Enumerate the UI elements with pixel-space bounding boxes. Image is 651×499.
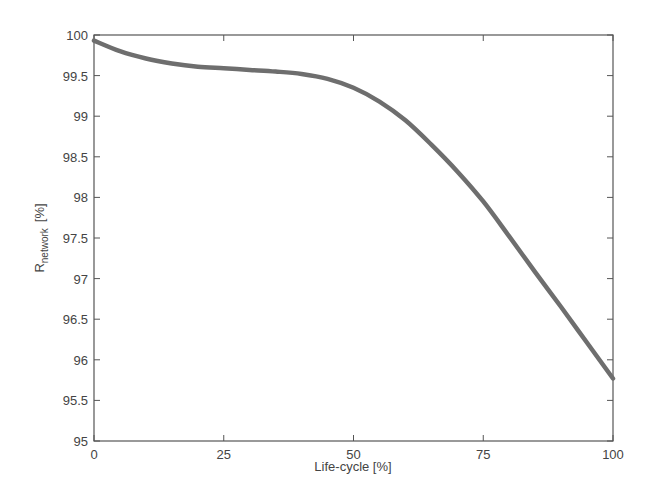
- y-tick-label: 100: [66, 28, 88, 43]
- y-tick-label: 95: [74, 434, 88, 449]
- y-tick-label: 98.5: [63, 150, 88, 165]
- y-tick-label: 98: [74, 190, 88, 205]
- y-tick-label: 99.5: [63, 69, 88, 84]
- x-tick-label: 25: [217, 447, 231, 462]
- y-tick-label: 95.5: [63, 393, 88, 408]
- y-tick-label: 99: [74, 109, 88, 124]
- y-axis-title-subscript: network: [39, 227, 50, 263]
- y-tick-label: 96.5: [63, 312, 88, 327]
- x-tick-label: 75: [476, 447, 490, 462]
- y-axis-title-unit: [%]: [32, 203, 47, 222]
- y-axis-title-main: R: [32, 263, 47, 272]
- y-tick-label: 97: [74, 272, 88, 287]
- plot-area: [94, 35, 613, 441]
- y-tick-label: 96: [74, 353, 88, 368]
- line-chart: 9595.59696.59797.59898.59999.5100 025507…: [0, 0, 651, 499]
- x-tick-label: 100: [602, 447, 624, 462]
- x-axis-title: Life-cycle [%]: [314, 459, 391, 474]
- y-axis-title: Rnetwork[%]: [32, 203, 50, 272]
- x-tick-label: 0: [90, 447, 97, 462]
- y-tick-label: 97.5: [63, 231, 88, 246]
